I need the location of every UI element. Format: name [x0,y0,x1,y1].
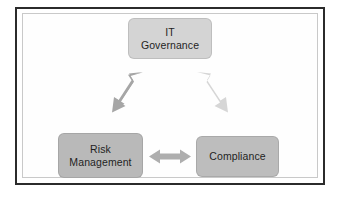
node-it-governance-label: IT Governance [138,26,202,51]
node-it-governance[interactable]: IT Governance [128,18,212,59]
node-compliance[interactable]: Compliance [196,136,279,177]
node-compliance-label: Compliance [206,150,268,162]
diagram-canvas: IT Governance Risk Management Compliance [0,0,340,197]
node-risk-management-label: Risk Management [66,143,134,168]
node-risk-management[interactable]: Risk Management [58,133,143,178]
